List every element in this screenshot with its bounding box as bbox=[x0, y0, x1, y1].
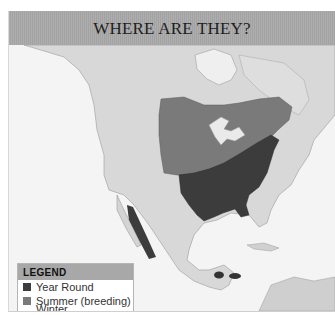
legend-label: Year Round bbox=[36, 281, 94, 293]
range-central-america-2 bbox=[229, 273, 241, 279]
year-round-swatch bbox=[23, 283, 31, 291]
legend-item-year-round: Year Round bbox=[18, 280, 133, 294]
map-title: WHERE ARE THEY? bbox=[9, 19, 335, 39]
summer-swatch bbox=[23, 297, 31, 305]
legend: LEGEND Year Round Summer (breeding) Wint… bbox=[17, 263, 134, 312]
range-central-america-1 bbox=[214, 272, 224, 279]
legend-item-winter: Winter (nonbreeding) bbox=[18, 308, 133, 312]
range-map-figure: WHERE ARE THEY? LEGEND Year Round bbox=[8, 11, 335, 312]
winter-swatch bbox=[23, 311, 31, 312]
legend-heading: LEGEND bbox=[18, 264, 133, 280]
title-banner: WHERE ARE THEY? bbox=[9, 11, 335, 45]
legend-label: Winter (nonbreeding) bbox=[36, 303, 133, 312]
